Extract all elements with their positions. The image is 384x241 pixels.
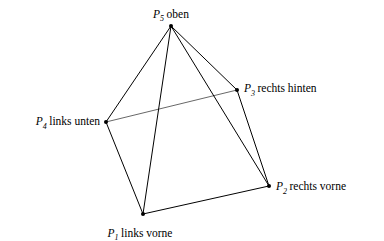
point-subscript-p1: 1 [115,233,119,241]
point-subscript-p5: 5 [160,14,164,23]
point-description-p2: rechts vorne [290,180,347,192]
vertex-label-p3: P3rechts hinten [244,83,317,95]
vertex-dot-p3 [235,88,239,92]
point-description-p1: links vorne [121,227,172,239]
edge-p1-p2 [143,186,269,214]
point-subscript-p4: 4 [43,122,47,131]
vertex-dot-p4 [104,120,108,124]
point-description-p3: rechts hinten [258,82,317,94]
vertex-dot-p1 [141,212,145,216]
point-subscript-p3: 3 [251,89,255,98]
point-symbol-p1: P [108,227,115,239]
edge-p5-p4 [106,26,171,122]
vertex-label-p2: P2rechts vorne [276,181,346,193]
edge-p2-p3 [237,90,269,186]
vertex-dot-p2 [267,184,271,188]
point-symbol-p5: P [153,8,160,20]
vertex-label-p1: P1links vorne [108,228,173,240]
vertex-dot-p5 [169,24,173,28]
point-symbol-p2: P [276,180,283,192]
edge-p4-p3 [106,90,237,122]
pyramid-diagram: P5oben P3rechts hinten P4links unten P2r… [0,0,384,241]
edges-group [106,26,269,214]
point-subscript-p2: 2 [283,187,287,196]
vertex-label-p4: P4links unten [36,116,100,128]
point-description-p5: oben [167,8,189,20]
point-symbol-p4: P [36,115,43,127]
edge-p4-p1 [106,122,143,214]
point-symbol-p3: P [244,82,251,94]
edge-p5-p2 [171,26,269,186]
point-description-p4: links unten [49,115,100,127]
vertex-label-p5: P5oben [153,9,189,21]
edge-p5-p1 [143,26,171,214]
